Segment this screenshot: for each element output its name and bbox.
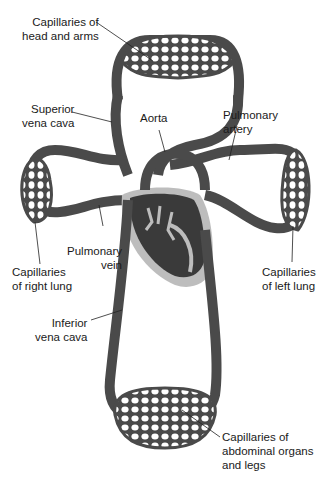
label-line: abdominal organs [222, 444, 313, 458]
label-line: Capillaries of [222, 430, 313, 444]
label-line: Capillaries [262, 265, 316, 279]
circulatory-diagram: Capillaries of head and arms Superior ve… [0, 0, 330, 480]
label-capillaries-left-lung: Capillaries of left lung [262, 265, 316, 293]
label-line: vena cava [22, 116, 74, 130]
label-pulmonary-artery: Pulmonary artery [223, 108, 278, 136]
heart [122, 188, 213, 287]
label-line: artery [223, 122, 278, 136]
abdominal-capillaries [115, 388, 216, 448]
label-superior-vena-cava: Superior vena cava [22, 102, 74, 130]
label-line: vena cava [35, 330, 87, 344]
label-inferior-vena-cava: Inferior vena cava [35, 316, 87, 344]
label-capillaries-head: Capillaries of head and arms [22, 15, 99, 43]
label-line: Capillaries of [22, 15, 99, 29]
label-line: Aorta [140, 111, 168, 125]
right-lung-capillaries [22, 150, 128, 222]
label-line: vein [66, 258, 122, 272]
label-capillaries-right-lung: Capillaries of right lung [12, 265, 72, 293]
label-pulmonary-vein: Pulmonary vein [66, 244, 122, 272]
label-line: of right lung [12, 279, 72, 293]
label-capillaries-abdominal: Capillaries of abdominal organs and legs [222, 430, 313, 472]
label-aorta: Aorta [140, 111, 168, 125]
diagram-artwork [0, 0, 330, 480]
label-line: Pulmonary [66, 244, 122, 258]
label-line: Inferior [35, 316, 87, 330]
label-line: Superior [22, 102, 74, 116]
label-line: of left lung [262, 279, 316, 293]
label-line: Pulmonary [223, 108, 278, 122]
head-capillaries [117, 36, 240, 100]
label-line: head and arms [22, 29, 99, 43]
label-line: and legs [222, 458, 313, 472]
label-line: Capillaries [12, 265, 72, 279]
inferior-vena-cava-vessel [110, 200, 128, 415]
